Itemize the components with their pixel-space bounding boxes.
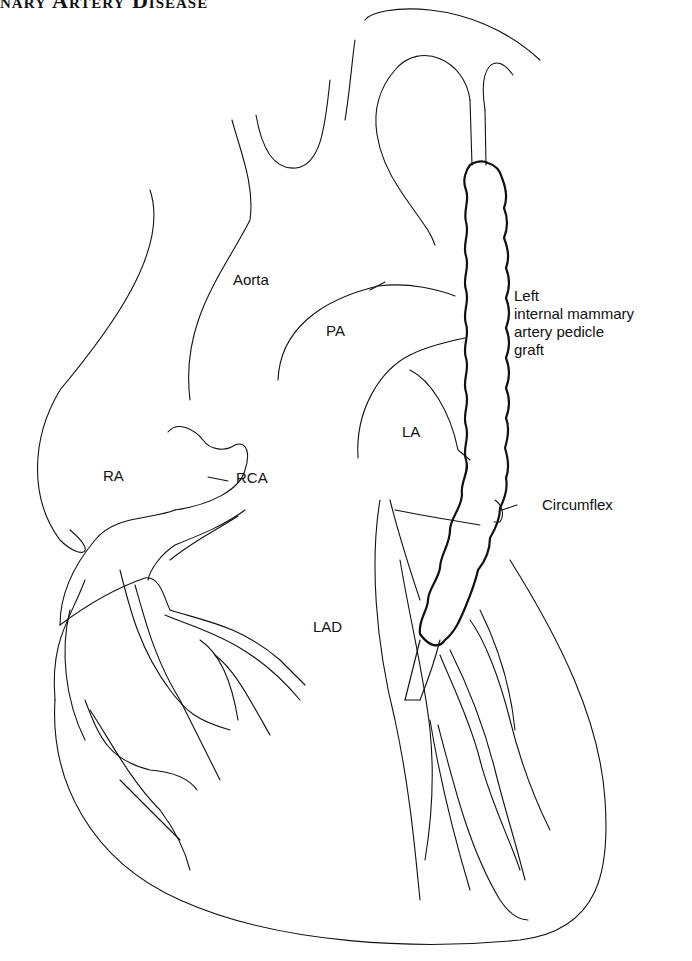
label-graft-line-3: artery pedicle [514,323,634,341]
label-ra: RA [103,466,124,485]
lima-graft [420,162,509,646]
label-graft: Left internal mammary artery pedicle gra… [514,287,634,359]
label-lad: LAD [313,617,342,636]
label-pa: PA [326,321,345,340]
label-aorta: Aorta [233,270,269,289]
label-circumflex: Circumflex [542,495,613,514]
label-graft-line-2: internal mammary [514,305,634,323]
label-graft-line-4: graft [514,341,634,359]
label-graft-line-1: Left [514,287,634,305]
label-rca: RCA [236,468,268,487]
label-la: LA [402,422,420,441]
